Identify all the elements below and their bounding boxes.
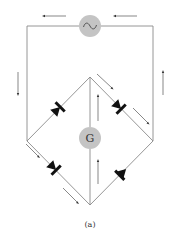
galvanometer: G: [79, 127, 101, 149]
arrow-right-side-icon: [162, 70, 164, 95]
arrow-upper-right-branch-icon: [97, 74, 150, 125]
ac-source: [79, 15, 101, 37]
arrow-top-left-icon: [42, 15, 66, 17]
current-arrows: [17, 15, 164, 204]
arrow-center-icon: [97, 94, 99, 121]
galvanometer-label: G: [86, 132, 95, 145]
arrow-top-right-icon: [113, 15, 137, 17]
arrow-lower-center-icon: [97, 159, 99, 184]
figure-caption: (a): [84, 220, 95, 229]
bridge-rectifier-diagram: G: [0, 0, 186, 237]
arrow-left-side-icon: [17, 72, 19, 96]
